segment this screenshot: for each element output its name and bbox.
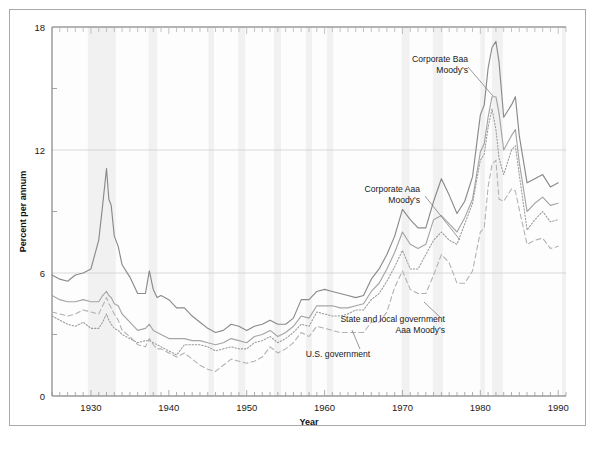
x-tick-label: 1980 xyxy=(470,402,491,413)
x-tick-label: 1940 xyxy=(158,402,179,413)
recession-band xyxy=(209,27,214,396)
annotation-label: Corporate Aaa xyxy=(365,184,421,194)
annotation-sublabel: Moody's xyxy=(436,65,468,75)
y-tick-label: 12 xyxy=(34,145,45,156)
x-tick-label: 1930 xyxy=(80,402,101,413)
annotation-label: Corporate Baa xyxy=(412,54,468,64)
y-tick-label: 0 xyxy=(40,391,45,402)
figure-root: 0612181930194019501960197019801990YearPe… xyxy=(0,0,595,451)
recession-band xyxy=(433,27,443,396)
y-axis-title: Percent per annum xyxy=(18,171,28,253)
y-tick-label: 6 xyxy=(40,268,45,279)
recession-band xyxy=(306,27,312,396)
x-tick-label: 1990 xyxy=(548,402,569,413)
x-tick-label: 1950 xyxy=(236,402,257,413)
recession-band xyxy=(327,27,333,396)
x-tick-label: 1970 xyxy=(392,402,413,413)
annotation-label: U.S. government xyxy=(306,349,371,359)
chart-canvas: 0612181930194019501960197019801990YearPe… xyxy=(0,0,595,451)
annotation-label: State and local government xyxy=(340,314,445,324)
y-tick-label: 18 xyxy=(34,22,45,33)
annotation-sublabel: Moody's xyxy=(388,195,420,205)
recession-band xyxy=(562,27,566,396)
annotation-sublabel: Aaa Moody's xyxy=(396,325,445,335)
interest-rate-line-chart: 0612181930194019501960197019801990YearPe… xyxy=(0,0,595,451)
recession-band xyxy=(402,27,410,396)
x-axis-title: Year xyxy=(299,417,319,427)
x-tick-label: 1960 xyxy=(314,402,335,413)
